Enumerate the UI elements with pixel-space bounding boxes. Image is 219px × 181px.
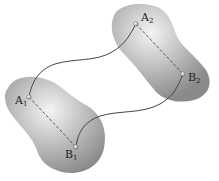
rigid-body-1 [5,77,105,173]
label-a1: A1 [15,95,27,108]
label-b2: B2 [188,72,201,85]
label-b1: B1 [65,149,78,162]
point-a2 [134,22,139,27]
point-b2 [181,72,186,77]
label-a2: A2 [141,12,153,25]
rigid-body-2 [112,4,210,102]
translation-diagram: A1 B1 A2 B2 [0,0,219,181]
diagram-canvas [0,0,219,181]
